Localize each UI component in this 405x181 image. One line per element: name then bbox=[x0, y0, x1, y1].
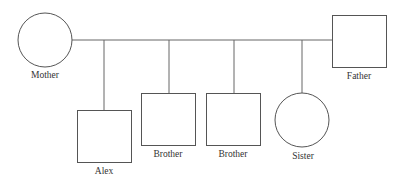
brother-2-node: Brother bbox=[207, 94, 261, 160]
pedigree-diagram: Mother Father Alex Brother Brother Siste… bbox=[0, 0, 405, 181]
female-circle-icon bbox=[18, 13, 72, 67]
brother-1-label: Brother bbox=[153, 149, 183, 159]
female-circle-icon bbox=[275, 93, 329, 147]
brother-2-label: Brother bbox=[218, 149, 248, 159]
alex-node: Alex bbox=[78, 111, 132, 177]
sister-node: Sister bbox=[275, 93, 329, 161]
alex-label: Alex bbox=[95, 166, 114, 176]
sister-label: Sister bbox=[292, 151, 314, 161]
father-node: Father bbox=[333, 16, 387, 82]
mother-label: Mother bbox=[31, 70, 60, 80]
father-label: Father bbox=[347, 71, 372, 81]
male-square-icon bbox=[78, 111, 132, 163]
male-square-icon bbox=[207, 94, 261, 146]
male-square-icon bbox=[333, 16, 387, 68]
brother-1-node: Brother bbox=[142, 94, 196, 160]
mother-node: Mother bbox=[18, 13, 72, 80]
male-square-icon bbox=[142, 94, 196, 146]
